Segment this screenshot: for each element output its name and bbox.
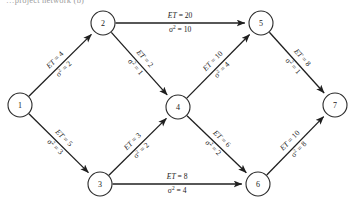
node-label-5: 5 (259, 19, 263, 28)
edge-label-variance-3-6: σ2 = 4 (168, 185, 187, 195)
node-label-7: 7 (333, 101, 337, 110)
network-svg: ET = 4σ2 = 2ET = 5σ2 = 3ET = 20σ2 = 10ET… (0, 0, 355, 205)
node-7[interactable]: 7 (323, 93, 347, 117)
node-4[interactable]: 4 (166, 95, 190, 119)
node-label-3: 3 (98, 180, 102, 189)
node-label-1: 1 (18, 101, 22, 110)
node-label-2: 2 (101, 19, 105, 28)
node-label-4: 4 (176, 103, 180, 112)
node-3[interactable]: 3 (88, 172, 112, 196)
node-2[interactable]: 2 (91, 11, 115, 35)
node-5[interactable]: 5 (249, 11, 273, 35)
nodes-group: 1234567 (8, 11, 347, 196)
edge-label-et-2-5: ET = 20 (167, 11, 193, 20)
network-diagram-canvas: …project network (b) ET = 4σ2 = 2ET = 5σ… (0, 0, 355, 205)
node-1[interactable]: 1 (8, 93, 32, 117)
node-6[interactable]: 6 (246, 172, 270, 196)
node-label-6: 6 (256, 180, 260, 189)
edge-label-variance-2-5: σ2 = 10 (169, 24, 192, 34)
edge-label-et-3-6: ET = 8 (166, 172, 188, 181)
